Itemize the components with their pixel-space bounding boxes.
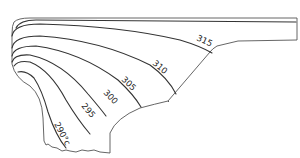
isotherm-315 [12, 24, 212, 53]
section-outline [12, 18, 297, 153]
isotherm-label-305: 305 [120, 74, 139, 92]
isotherm-label-310: 310 [151, 58, 170, 76]
isotherm-label-290: 290°c [52, 120, 73, 147]
isotherm-label-295: 295 [79, 101, 97, 120]
isotherm-label-300: 300 [102, 87, 120, 106]
isotherm-upper-edge [16, 20, 296, 28]
isotherm-diagram: 315 310 305 300 295 290°c [0, 0, 300, 158]
